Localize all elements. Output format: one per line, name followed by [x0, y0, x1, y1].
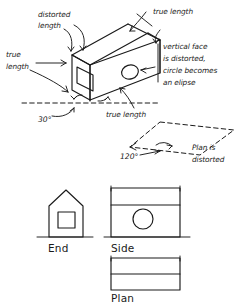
leader-angle-30 — [52, 108, 74, 117]
leader-true-length-left-2 — [30, 70, 68, 92]
plan-vertex-tick-left — [130, 143, 136, 150]
isometric-projection-sketch: distorted length true length true length… — [0, 0, 240, 306]
box-roof-top-back-edge — [90, 33, 148, 65]
plan-view: Plan — [111, 256, 180, 304]
end-view-window — [58, 212, 75, 228]
label-angle-30: 30° — [38, 115, 52, 124]
plan-angle-120-arc-arrow — [167, 145, 172, 149]
side-view-outline — [111, 188, 180, 237]
leader-distorted-length-2 — [74, 25, 84, 50]
end-view-outline — [49, 190, 83, 237]
side-view-circle — [133, 209, 153, 229]
box-roof-right-edge — [148, 33, 160, 40]
distorted-plan-parallelogram — [130, 122, 234, 155]
end-view: End — [37, 190, 93, 254]
label-true-length-top: true length — [153, 7, 193, 16]
box-side-face-ellipse — [120, 63, 140, 82]
side-view-label: Side — [111, 242, 135, 254]
sketch-page: distorted length true length true length… — [0, 0, 240, 306]
box-end-face-window — [77, 67, 93, 91]
label-angle-120: 120° — [120, 152, 138, 161]
label-vertical-face-line1: vertical face — [163, 42, 208, 51]
label-true-length-left-line2: length — [6, 62, 29, 71]
box-top-face-ridge-left — [72, 24, 128, 55]
leader-lines — [30, 12, 160, 155]
label-vertical-face-line3: circle becomes — [163, 66, 217, 75]
label-distorted-length-line2: length — [38, 21, 61, 30]
end-view-label: End — [48, 242, 69, 254]
box-end-face-outline — [72, 55, 90, 100]
label-plan-distorted-line1: Plan is — [192, 143, 216, 152]
label-plan-distorted-line2: distorted — [192, 155, 225, 164]
leader-ellipse-arrow — [141, 68, 146, 73]
box-side-face-outline — [90, 40, 160, 100]
label-true-length-bottom: true length — [106, 110, 146, 119]
plan-view-label: Plan — [111, 292, 134, 304]
label-distorted-length-line1: distorted — [38, 10, 71, 19]
side-view: Side — [104, 186, 190, 254]
leader-true-length-bottom — [120, 88, 134, 108]
label-vertical-face-line4: an elipse — [163, 78, 196, 87]
plan-parallelogram-outline — [130, 122, 234, 155]
label-vertical-face-line2: is distorted, — [163, 54, 206, 63]
angle-right-arrowhead — [105, 97, 110, 100]
isometric-box — [22, 24, 160, 103]
angle-30-arrowhead — [71, 96, 77, 99]
label-true-length-left-line1: true — [6, 50, 21, 59]
